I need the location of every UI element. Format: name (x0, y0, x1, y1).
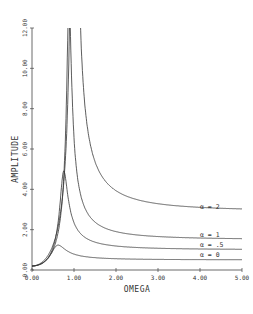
x-tick-label: 3.00 (151, 274, 166, 281)
y-tick-label: 8.00 (21, 101, 28, 116)
x-tick-label: 2.00 (109, 274, 124, 281)
y-tick-label: 6.00 (21, 141, 28, 156)
curve-series (32, 8, 242, 266)
amplitude-chart: 0.001.002.003.004.005.000.002.004.006.00… (0, 0, 253, 314)
y-axis-label: AMPLITUDE (11, 135, 20, 183)
series-label: α = 2 (200, 203, 220, 211)
y-tick-label: 4.00 (21, 182, 28, 197)
y-tick-label: 0.00 (21, 262, 28, 277)
x-tick-label: 4.00 (193, 274, 208, 281)
y-tick-label: 10.00 (21, 59, 28, 77)
series-label: α = 1 (200, 231, 220, 239)
curve-series (32, 8, 242, 266)
x-tick-label: 5.00 (235, 274, 250, 281)
y-tick-label: 12.00 (21, 19, 28, 37)
x-tick-label: 1.00 (67, 274, 82, 281)
y-tick-label: 2.00 (21, 222, 28, 237)
series-label: α = 0 (200, 251, 220, 259)
x-axis-label: OMEGA (124, 285, 151, 294)
series-label: α = .5 (200, 241, 224, 249)
